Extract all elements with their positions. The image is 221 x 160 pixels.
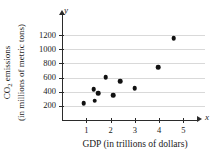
y-axis-title: CO2 emissions (in millions of metric ton…: [2, 7, 27, 137]
y-axis-title-line2: (in millions of metric tons): [16, 7, 27, 137]
y-axis-title-co: CO: [2, 87, 12, 100]
x-axis-line: [62, 120, 198, 121]
x-tick-2: [111, 118, 112, 123]
y-axis-title-subscript: 2: [6, 83, 13, 86]
data-point: [111, 93, 116, 98]
gridline-y-200: [62, 106, 205, 107]
data-point: [171, 36, 176, 41]
y-axis-variable-name: y: [64, 6, 68, 15]
y-tick-400: [59, 92, 64, 93]
x-tick-label-5: 5: [175, 126, 191, 135]
data-point: [91, 87, 96, 92]
y-tick-800: [59, 63, 64, 64]
data-point: [103, 75, 108, 80]
x-tick-3: [135, 118, 136, 123]
y-tick-200: [59, 106, 64, 107]
scatter-plot-figure: 20040060080010001200 12345 y x GDP (in t…: [0, 0, 221, 160]
data-point: [96, 91, 101, 96]
x-axis-variable-name: x: [205, 113, 209, 122]
y-tick-label-1000: 1000: [24, 45, 56, 54]
gridline-y-600: [62, 78, 205, 79]
y-tick-label-1200: 1200: [24, 31, 56, 40]
gridline-y-1200: [62, 35, 205, 36]
data-point: [82, 101, 87, 106]
y-tick-1000: [59, 49, 64, 50]
x-tick-5: [183, 118, 184, 123]
gridline-y-800: [62, 63, 205, 64]
y-tick-label-200: 200: [24, 101, 56, 110]
data-point: [133, 86, 138, 91]
x-axis-arrow-icon: [197, 116, 202, 122]
y-tick-label-600: 600: [24, 73, 56, 82]
y-axis-title-line1: CO2 emissions: [2, 7, 16, 137]
x-axis-title: GDP (in trillions of dollars): [55, 139, 215, 150]
x-tick-4: [159, 118, 160, 123]
y-tick-label-400: 400: [24, 87, 56, 96]
y-tick-1200: [59, 35, 64, 36]
y-tick-label-800: 800: [24, 59, 56, 68]
data-point: [156, 65, 161, 70]
gridline-y-1000: [62, 49, 205, 50]
y-tick-600: [59, 78, 64, 79]
data-point: [118, 79, 123, 84]
x-tick-label-4: 4: [151, 126, 167, 135]
y-axis-line: [62, 14, 63, 120]
y-axis-title-emissions: emissions: [2, 46, 12, 84]
x-tick-label-3: 3: [127, 126, 143, 135]
x-tick-1: [86, 118, 87, 123]
x-tick-label-2: 2: [103, 126, 119, 135]
gridline-y-400: [62, 92, 205, 93]
data-point: [92, 99, 97, 104]
x-tick-label-1: 1: [78, 126, 94, 135]
